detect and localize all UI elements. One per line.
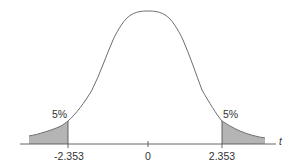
right-tail-percent-label: 5% (223, 109, 238, 120)
tick-label-zero: 0 (145, 151, 151, 162)
tick-label-left-critical: -2.353 (54, 151, 84, 162)
tick-label-right-critical: 2.353 (209, 151, 235, 162)
left-tail-shading (29, 121, 68, 144)
x-axis-variable-label: t (279, 137, 282, 147)
t-distribution-diagram (0, 0, 294, 168)
left-tail-percent-label: 5% (52, 109, 67, 120)
